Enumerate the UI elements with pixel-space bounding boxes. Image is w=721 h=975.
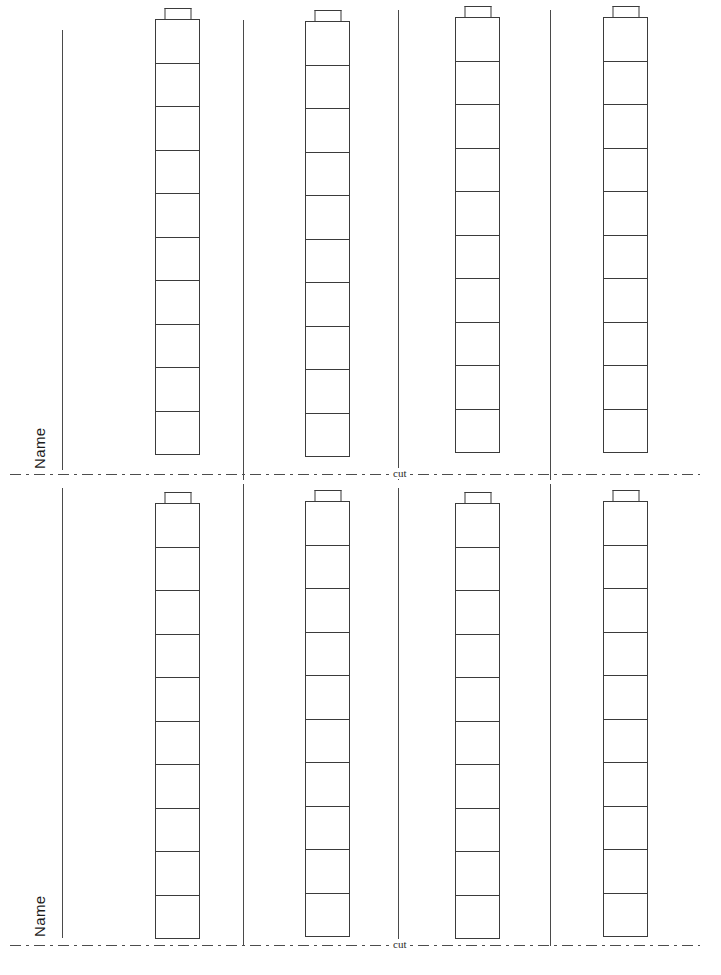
tower-stud-icon [164,8,191,19]
cube-tower-top-3[interactable] [455,6,500,452]
tower-blocks [155,503,200,939]
tower-block-cell[interactable] [604,633,647,677]
tower-block-cell[interactable] [456,548,499,592]
tower-block-cell[interactable] [306,327,349,371]
tower-block-cell[interactable] [604,546,647,590]
tower-block-cell[interactable] [456,896,499,940]
tower-block-cell[interactable] [306,633,349,677]
tower-block-cell[interactable] [156,412,199,456]
name-rule-top [62,30,63,470]
tower-stud-icon [314,10,341,21]
tower-block-cell[interactable] [306,589,349,633]
tower-block-cell[interactable] [306,807,349,851]
tower-block-cell[interactable] [306,502,349,546]
tower-block-cell[interactable] [604,589,647,633]
tower-block-cell[interactable] [156,151,199,195]
tower-block-cell[interactable] [156,325,199,369]
tower-block-cell[interactable] [604,236,647,280]
tower-stud-icon [464,6,491,17]
tower-block-cell[interactable] [604,62,647,106]
tower-block-cell[interactable] [306,240,349,284]
tower-block-cell[interactable] [456,236,499,280]
tower-block-cell[interactable] [306,414,349,458]
tower-block-cell[interactable] [456,722,499,766]
cube-tower-bottom-4[interactable] [603,490,648,936]
tower-block-cell[interactable] [604,676,647,720]
cube-tower-bottom-2[interactable] [305,490,350,936]
tower-block-cell[interactable] [456,105,499,149]
tower-block-cell[interactable] [156,809,199,853]
tower-block-cell[interactable] [604,410,647,454]
tower-block-cell[interactable] [604,894,647,938]
tower-block-cell[interactable] [306,546,349,590]
tower-block-cell[interactable] [604,323,647,367]
tower-block-cell[interactable] [456,852,499,896]
cube-tower-top-2[interactable] [305,10,350,456]
tower-block-cell[interactable] [604,149,647,193]
tower-block-cell[interactable] [156,194,199,238]
cube-tower-top-4[interactable] [603,6,648,452]
tower-block-cell[interactable] [306,22,349,66]
tower-block-cell[interactable] [156,852,199,896]
tower-block-cell[interactable] [456,410,499,454]
tower-block-cell[interactable] [456,18,499,62]
tower-block-cell[interactable] [156,896,199,940]
tower-block-cell[interactable] [456,678,499,722]
tower-block-cell[interactable] [156,765,199,809]
tower-block-cell[interactable] [456,635,499,679]
name-label-top: Name [31,427,48,469]
tower-block-cell[interactable] [604,18,647,62]
tower-block-cell[interactable] [456,279,499,323]
tower-stud-icon [464,492,491,503]
tower-block-cell[interactable] [604,807,647,851]
tower-block-cell[interactable] [156,64,199,108]
tower-block-cell[interactable] [306,676,349,720]
tower-block-cell[interactable] [156,635,199,679]
tower-block-cell[interactable] [156,107,199,151]
tower-block-cell[interactable] [306,66,349,110]
tower-block-cell[interactable] [456,809,499,853]
tower-block-cell[interactable] [456,192,499,236]
tower-stud-icon [612,490,639,501]
column-separator-bottom-1 [243,484,244,946]
tower-block-cell[interactable] [156,368,199,412]
tower-block-cell[interactable] [306,370,349,414]
tower-block-cell[interactable] [456,149,499,193]
tower-block-cell[interactable] [456,323,499,367]
tower-block-cell[interactable] [156,20,199,64]
tower-block-cell[interactable] [306,153,349,197]
tower-block-cell[interactable] [306,109,349,153]
tower-block-cell[interactable] [156,591,199,635]
tower-block-cell[interactable] [156,722,199,766]
tower-block-cell[interactable] [156,678,199,722]
tower-block-cell[interactable] [604,850,647,894]
tower-block-cell[interactable] [306,283,349,327]
cut-line-bottom [10,945,700,946]
tower-block-cell[interactable] [604,105,647,149]
tower-block-cell[interactable] [306,720,349,764]
tower-block-cell[interactable] [456,366,499,410]
tower-block-cell[interactable] [456,765,499,809]
cube-tower-top-1[interactable] [155,8,200,454]
tower-block-cell[interactable] [306,763,349,807]
tower-block-cell[interactable] [604,502,647,546]
cube-tower-bottom-3[interactable] [455,492,500,938]
tower-block-cell[interactable] [456,62,499,106]
tower-block-cell[interactable] [306,894,349,938]
tower-block-cell[interactable] [156,504,199,548]
tower-block-cell[interactable] [604,366,647,410]
cut-label-top: cut [389,468,410,479]
cube-tower-bottom-1[interactable] [155,492,200,938]
tower-block-cell[interactable] [604,763,647,807]
tower-block-cell[interactable] [456,591,499,635]
tower-block-cell[interactable] [604,720,647,764]
tower-block-cell[interactable] [456,504,499,548]
tower-block-cell[interactable] [306,850,349,894]
worksheet-page: NamecutNamecut [0,0,721,975]
tower-block-cell[interactable] [156,548,199,592]
tower-block-cell[interactable] [156,281,199,325]
tower-block-cell[interactable] [604,279,647,323]
tower-block-cell[interactable] [306,196,349,240]
tower-block-cell[interactable] [604,192,647,236]
tower-block-cell[interactable] [156,238,199,282]
